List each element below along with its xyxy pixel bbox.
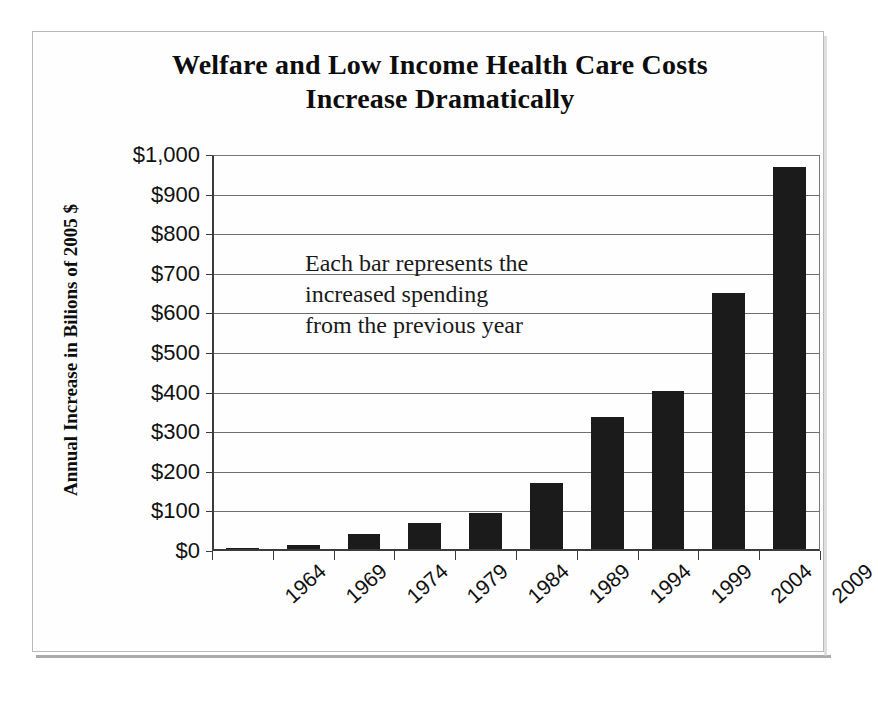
x-axis-tick <box>455 551 456 560</box>
y-axis-tick-label: $600 <box>151 300 200 326</box>
x-axis-tick <box>759 551 760 560</box>
y-axis-tick-label: $700 <box>151 261 200 287</box>
page-shadow <box>36 655 831 658</box>
x-axis-ticks <box>212 551 820 561</box>
y-axis-tick-label: $300 <box>151 419 200 445</box>
y-axis-tick-label: $1,000 <box>133 142 200 168</box>
y-axis-tick-label: $0 <box>176 538 200 564</box>
x-axis-tick <box>577 551 578 560</box>
plot-border <box>212 155 820 551</box>
x-axis-tick <box>334 551 335 560</box>
chart-title-line-2: Increase Dramatically <box>90 82 790 116</box>
x-axis-tick <box>516 551 517 560</box>
y-axis-tick-label: $900 <box>151 182 200 208</box>
y-axis-tick-label: $800 <box>151 221 200 247</box>
x-axis-tick <box>820 551 821 560</box>
x-axis-tick-label: 2009 <box>827 559 878 608</box>
chart-title: Welfare and Low Income Health Care Costs… <box>90 48 790 116</box>
y-axis-tick-label: $200 <box>151 459 200 485</box>
chart-title-line-1: Welfare and Low Income Health Care Costs <box>90 48 790 82</box>
y-axis-tick-label: $500 <box>151 340 200 366</box>
x-axis-tick <box>394 551 395 560</box>
plot-area: $0$100$200$300$400$500$600$700$800$900$1… <box>212 155 820 551</box>
x-axis-tick <box>638 551 639 560</box>
y-axis-tick-label: $100 <box>151 498 200 524</box>
y-axis-tick-label: $400 <box>151 380 200 406</box>
y-axis-title: Annual Increase in Bilions of 2005 $ <box>60 135 86 565</box>
x-axis-tick <box>273 551 274 560</box>
annotation-each-bar: Each bar represents the increased spendi… <box>305 248 540 341</box>
page-shadow-right <box>824 36 827 656</box>
x-axis-tick <box>212 551 213 560</box>
x-axis-tick <box>698 551 699 560</box>
